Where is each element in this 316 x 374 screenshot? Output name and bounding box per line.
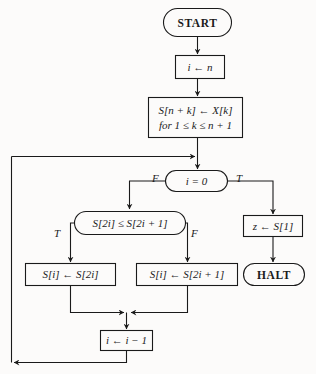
node-decrement-shape [101,331,153,351]
edge-assign-left-to-merge [71,286,125,313]
edge-compare-true-to-assign-left [71,223,75,262]
node-output-z-shape [244,216,303,237]
node-halt-shape [244,264,305,286]
edge-test-false-to-compare [130,181,166,209]
node-test-zero-shape [166,171,228,192]
node-start-shape [164,9,232,37]
node-assign-left-shape [26,264,116,286]
edge-decrement-loopback [14,351,127,363]
edge-assign-right-to-merge [131,286,188,313]
node-fill-array-shape [149,98,243,138]
flowchart-svg [0,0,316,374]
flowchart-canvas: START i ← n S[n + k] ← X[k] for 1 ≤ k ≤ … [0,0,316,374]
edge-compare-false-to-assign-right [186,223,188,262]
node-assign-right-shape [137,264,238,286]
edge-test-true-to-output [228,181,274,214]
node-init-i-shape [176,56,225,79]
node-compare-shape [75,212,186,235]
